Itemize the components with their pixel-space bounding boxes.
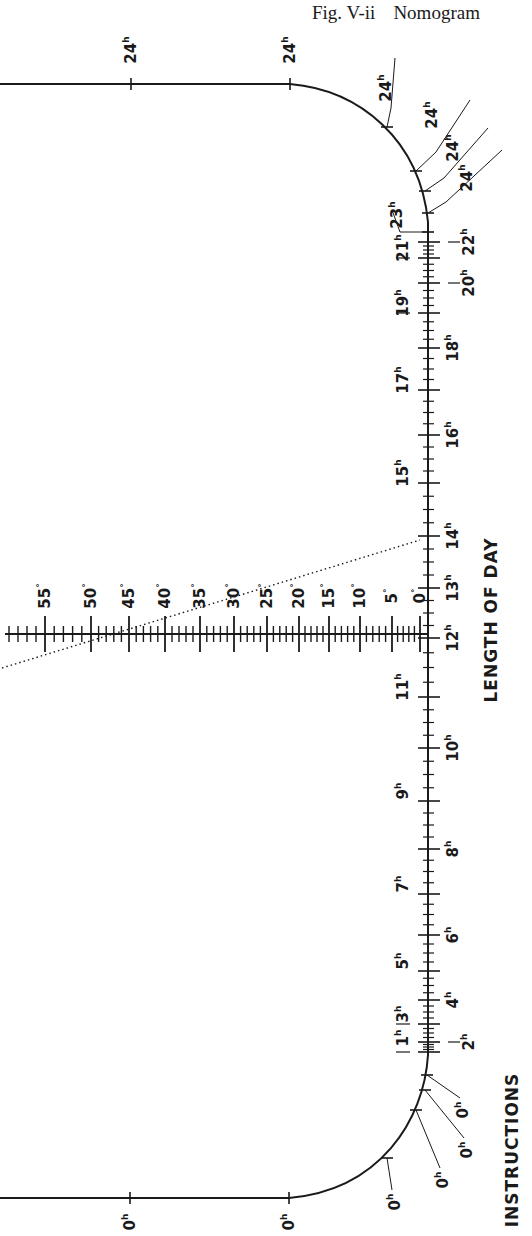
- day-tick-label: 11h: [393, 673, 412, 700]
- day-tick-label: 0h: [279, 1214, 298, 1231]
- day-tick-label: 24h: [457, 164, 476, 191]
- length-of-day-label: LENGTH OF DAY: [481, 537, 501, 702]
- day-tick-label: 0h: [120, 1214, 139, 1231]
- day-tick-label: 12h: [443, 624, 462, 651]
- day-tick-label: 24h: [121, 36, 140, 63]
- day-tick-label: 0h: [453, 1102, 472, 1119]
- day-tick-label: 17h: [393, 366, 412, 393]
- day-tick-label: 21h: [393, 234, 412, 261]
- day-tick-label: 24h: [280, 36, 299, 63]
- day-tick-label: 8h: [443, 841, 462, 858]
- day-tick-label: 14h: [443, 522, 462, 549]
- day-tick-label: 2h: [459, 1034, 478, 1051]
- day-tick-label: 5h: [393, 953, 412, 970]
- day-tick-label: 19h: [393, 289, 412, 316]
- latitude-tick-label: 55°: [35, 583, 54, 608]
- day-tick-label: 15h: [393, 459, 412, 486]
- latitude-tick-label: 45°: [119, 583, 138, 608]
- latitude-tick-label: 30°: [224, 583, 243, 608]
- day-tick-label: 20h: [459, 269, 478, 296]
- day-tick-label: 16h: [443, 421, 462, 448]
- latitude-tick-label: 15°: [319, 583, 338, 608]
- day-tick-label: 9h: [393, 783, 412, 800]
- day-tick-label: 24h: [443, 134, 462, 161]
- day-tick-label: 24h: [376, 74, 395, 101]
- latitude-tick-label: 5°: [382, 589, 401, 604]
- latitude-tick-label: 40°: [155, 583, 174, 608]
- nomogram-page: Fig. V-iiNomogram 24h24h0h0h24h24h24h24h…: [0, 0, 532, 1236]
- nomogram-diagram: 24h24h0h0h24h24h24h24h23h0h0h0h0h22h21h2…: [0, 0, 532, 1236]
- day-tick-label: 23h: [387, 201, 406, 228]
- latitude-tick-label: 10°: [350, 583, 369, 608]
- day-tick-label: 0h: [457, 1142, 476, 1159]
- day-tick-label: 7h: [393, 876, 412, 893]
- latitude-tick-label: 50°: [81, 583, 100, 608]
- latitude-tick-label: 25°: [257, 583, 276, 608]
- instructions-label: INSTRUCTIONS: [502, 1073, 522, 1228]
- day-tick-label: 24h: [422, 101, 441, 128]
- day-tick-label: 1h: [393, 1030, 412, 1047]
- day-tick-label: 0h: [433, 1172, 452, 1189]
- latitude-tick-label: 0°: [410, 589, 429, 604]
- day-tick-label: 13h: [443, 574, 462, 601]
- latitude-tick-label: 20°: [289, 583, 308, 608]
- day-tick-label: 0h: [385, 1194, 404, 1211]
- day-tick-label: 4h: [443, 992, 462, 1009]
- latitude-tick-label: 35°: [190, 583, 209, 608]
- latitude-scale: 55°50°45°40°35°30°25°20°15°10°5°0°: [5, 583, 429, 652]
- day-tick-label: 10h: [443, 734, 462, 761]
- day-tick-label: 18h: [443, 334, 462, 361]
- day-tick-label: 22h: [459, 228, 478, 255]
- day-tick-label: 3h: [393, 1006, 412, 1023]
- day-tick-label: 6h: [443, 927, 462, 944]
